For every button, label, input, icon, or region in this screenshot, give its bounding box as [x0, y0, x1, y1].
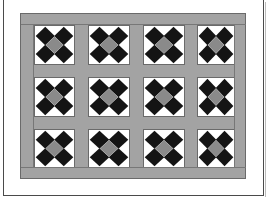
sashing-seam — [33, 24, 34, 168]
sashing-seam — [21, 24, 246, 25]
quilt-block — [34, 77, 75, 117]
quilt-block — [143, 77, 185, 117]
quilt-block — [197, 129, 235, 168]
quilt-block — [34, 25, 75, 65]
quilt-block — [88, 129, 130, 168]
quilt-block — [197, 25, 235, 65]
quilt-block — [88, 77, 130, 117]
sashing-seam — [21, 167, 246, 168]
sashing-seam — [234, 24, 235, 168]
quilt-block — [197, 77, 235, 117]
quilt-block — [34, 129, 75, 168]
quilt — [20, 13, 246, 179]
quilt-block — [88, 25, 130, 65]
quilt-block — [143, 25, 185, 65]
quilt-block — [143, 129, 185, 168]
